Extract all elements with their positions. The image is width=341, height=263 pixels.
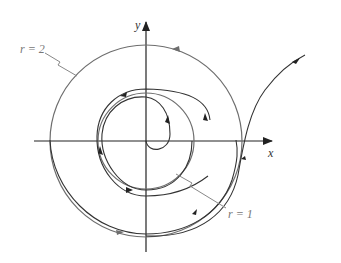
trajectories xyxy=(50,55,305,236)
r2-label: r = 2 xyxy=(20,42,45,56)
arrow-icon xyxy=(165,115,170,124)
escape-trajectory xyxy=(146,55,305,236)
arrow-icon xyxy=(292,58,300,64)
r2-leader-line xyxy=(45,53,77,76)
x-axis-label: x xyxy=(267,146,274,160)
arrow-icon xyxy=(172,46,180,52)
r1-label: r = 1 xyxy=(228,207,253,221)
y-axis-label: y xyxy=(134,18,141,32)
r1-leader-line xyxy=(176,174,226,208)
arrow-icon xyxy=(203,113,208,121)
labels: r = 2 r = 1 xyxy=(20,42,253,221)
arrow-icon xyxy=(192,209,197,215)
arrow-icon xyxy=(126,187,133,193)
phase-portrait-diagram: x y r = 2 r = 1 xyxy=(0,0,341,263)
